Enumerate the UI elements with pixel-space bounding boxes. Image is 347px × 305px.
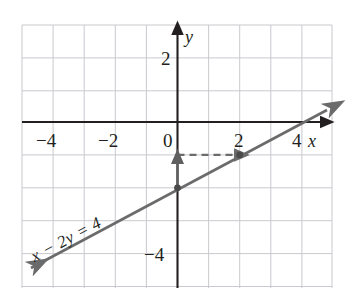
x-tick-label-neg2: −2 — [98, 131, 118, 150]
point-second — [236, 152, 243, 159]
coordinate-plane-svg — [0, 0, 347, 305]
point-y-intercept — [174, 184, 181, 191]
x-tick-label-neg4: −4 — [36, 131, 56, 150]
graph-figure: −4 −2 0 2 4 x 2 −4 y x − 2y = 4 — [0, 0, 347, 305]
x-tick-label-4: 4 — [292, 131, 302, 150]
x-axis-label: x — [308, 132, 316, 150]
x-tick-label-2: 2 — [234, 131, 244, 150]
origin-label: 0 — [163, 131, 173, 150]
y-tick-label-2: 2 — [161, 49, 171, 68]
y-tick-label-neg4: −4 — [144, 245, 164, 264]
y-axis-label: y — [185, 28, 193, 46]
